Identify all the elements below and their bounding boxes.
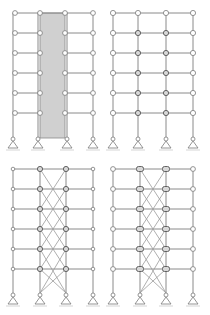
rigid-joint — [135, 30, 140, 35]
rigid-joint — [190, 50, 195, 55]
braced-joint — [63, 246, 68, 251]
pin-joint — [191, 207, 196, 212]
rigid-joint — [110, 30, 115, 35]
rigid-joint — [190, 30, 195, 35]
pin-joint — [13, 51, 18, 56]
frame-panel-a — [6, 11, 100, 150]
pinned-support-icon — [33, 141, 43, 148]
rigid-joint — [135, 90, 140, 95]
rigid-joint — [163, 110, 168, 115]
pin-joint — [91, 91, 96, 96]
pin-joint — [38, 51, 43, 56]
pin-joint — [63, 91, 68, 96]
rigid-joint — [135, 110, 140, 115]
pin-joint — [91, 11, 96, 16]
pinned-support-icon — [8, 141, 18, 148]
rigid-braced-joint — [137, 207, 144, 212]
rigid-joint — [190, 110, 195, 115]
braced-joint — [63, 186, 68, 191]
pin-joint — [111, 267, 116, 272]
pin-joint — [63, 31, 68, 36]
pin-joint — [63, 51, 68, 56]
rigid-joint — [163, 10, 168, 15]
rigid-joint — [110, 70, 115, 75]
braced-joint — [63, 166, 68, 171]
pin-joint — [91, 31, 96, 36]
pinned-support-icon — [88, 141, 98, 148]
pinned-support-icon — [61, 297, 71, 304]
rigid-braced-joint — [163, 167, 170, 172]
pin-joint — [191, 187, 196, 192]
pinned-support-icon — [35, 297, 45, 304]
rigid-braced-joint — [137, 187, 144, 192]
pin-joint — [63, 11, 68, 16]
pinned-support-icon — [161, 297, 171, 304]
pin-joint — [11, 267, 15, 271]
braced-joint — [63, 226, 68, 231]
pin-joint — [63, 71, 68, 76]
pin-joint — [111, 227, 116, 232]
pin-joint — [91, 267, 95, 271]
pin-joint — [13, 11, 18, 16]
pin-joint — [111, 207, 116, 212]
pin-joint — [11, 187, 15, 191]
braced-joint — [37, 166, 42, 171]
pin-joint — [111, 167, 116, 172]
rigid-joint — [190, 70, 195, 75]
pin-joint — [11, 167, 15, 171]
rigid-joint — [163, 70, 168, 75]
pin-joint — [13, 111, 18, 116]
pinned-support-icon — [108, 297, 118, 304]
pin-joint — [11, 207, 15, 211]
rigid-joint — [163, 50, 168, 55]
pin-joint — [13, 71, 18, 76]
pinned-support-icon — [62, 141, 72, 148]
pin-joint — [38, 11, 43, 16]
pin-joint — [111, 247, 116, 252]
rigid-joint — [110, 110, 115, 115]
frame-panel-b — [106, 10, 200, 150]
pin-joint — [11, 247, 15, 251]
braced-joint — [37, 266, 42, 271]
pin-joint — [191, 267, 196, 272]
pin-joint — [38, 111, 43, 116]
pin-joint — [91, 187, 95, 191]
braced-joint — [37, 186, 42, 191]
rigid-braced-joint — [163, 247, 170, 252]
rigid-joint — [135, 70, 140, 75]
pin-joint — [91, 167, 95, 171]
pinned-support-icon — [133, 141, 143, 148]
braced-joint — [37, 246, 42, 251]
rigid-joint — [135, 10, 140, 15]
rigid-braced-joint — [137, 267, 144, 272]
pin-joint — [111, 187, 116, 192]
pin-joint — [38, 71, 43, 76]
pinned-support-icon — [108, 141, 118, 148]
rigid-braced-joint — [137, 247, 144, 252]
pin-joint — [13, 91, 18, 96]
rigid-joint — [135, 50, 140, 55]
pinned-support-icon — [8, 297, 18, 304]
rigid-joint — [110, 10, 115, 15]
structural-frames-diagram — [0, 0, 210, 315]
rigid-joint — [163, 90, 168, 95]
frame-panel-c — [6, 166, 100, 306]
pin-joint — [91, 247, 95, 251]
pin-joint — [91, 111, 96, 116]
shear-wall-core — [40, 13, 65, 138]
frame-panel-d — [106, 167, 200, 307]
pin-joint — [91, 207, 95, 211]
rigid-braced-joint — [137, 167, 144, 172]
braced-joint — [37, 226, 42, 231]
pin-joint — [13, 31, 18, 36]
pin-joint — [38, 31, 43, 36]
rigid-joint — [110, 50, 115, 55]
rigid-joint — [190, 10, 195, 15]
pin-joint — [38, 91, 43, 96]
pin-joint — [191, 227, 196, 232]
rigid-joint — [163, 30, 168, 35]
pinned-support-icon — [161, 141, 171, 148]
pin-joint — [191, 247, 196, 252]
rigid-braced-joint — [163, 187, 170, 192]
rigid-braced-joint — [163, 227, 170, 232]
